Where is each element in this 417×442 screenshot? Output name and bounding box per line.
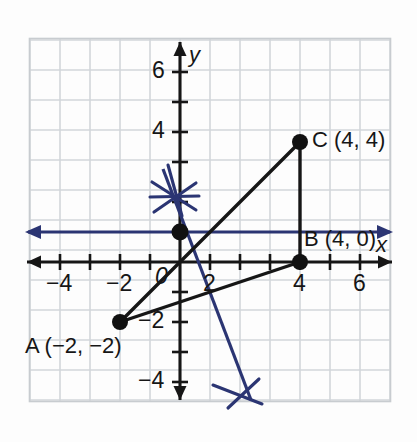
x-axis-name: x — [376, 234, 387, 256]
x-tick-label-pos6: 6 — [353, 272, 366, 295]
x-tick-label-neg4: −4 — [46, 272, 72, 295]
origin-label: 0 — [155, 265, 168, 288]
plot-canvas — [0, 0, 417, 442]
x-tick-label-pos4: 4 — [293, 272, 306, 295]
y-tick-label-neg2: −2 — [138, 309, 164, 332]
point-b-dot — [292, 254, 308, 270]
point-c-dot — [292, 134, 308, 150]
point-midpoint-dot — [172, 224, 189, 241]
y-axis-name: y — [189, 44, 200, 66]
point-b-label: B (4, 0) — [304, 228, 376, 250]
coordinate-plane-figure: y x 0 −4 −2 2 4 6 6 4 −2 −4 C (4, 4) B (… — [0, 0, 417, 442]
y-tick-label-neg4: −4 — [138, 369, 164, 392]
x-tick-label-pos2: 2 — [203, 272, 216, 295]
x-tick-label-neg2: −2 — [106, 272, 132, 295]
point-c-label: C (4, 4) — [312, 129, 385, 151]
point-a-dot — [112, 314, 128, 330]
y-tick-label-pos4: 4 — [152, 119, 165, 142]
y-tick-label-pos6: 6 — [152, 59, 165, 82]
point-a-label: A (−2, −2) — [25, 335, 122, 357]
